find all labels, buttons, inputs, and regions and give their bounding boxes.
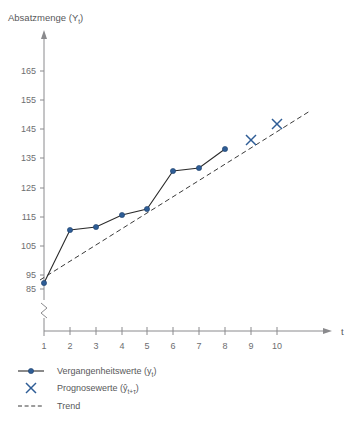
x-tick-label-5: 5	[144, 341, 149, 351]
data-point-t5	[144, 206, 149, 211]
x-tick-label-8: 8	[222, 341, 227, 351]
x-tick-label-3: 3	[93, 341, 98, 351]
y-axis-ticks	[40, 71, 44, 289]
chart-legend: Vergangenheitswerte (yt) Prognosewerte (…	[18, 366, 156, 411]
trend-line	[40, 111, 310, 280]
y-tick-label-115: 115	[22, 212, 36, 222]
legend-item-vergangenheitswerte: Vergangenheitswerte (yt)	[18, 366, 156, 378]
chart-svg: Absatzmenge (Yt) t 85 95 105 115 1	[0, 0, 361, 421]
x-tick-label-4: 4	[119, 341, 124, 351]
x-axis-label: t	[341, 326, 344, 337]
legend-item-prognosewerte: Prognosewerte (ŷt+τ)	[26, 383, 139, 395]
data-point-t3	[93, 224, 98, 229]
data-point-t6	[170, 168, 175, 173]
legend-label-trend: Trend	[57, 401, 80, 411]
legend-label-vergangenheitswerte: Vergangenheitswerte (yt)	[57, 366, 156, 378]
forecast-point-t9	[246, 135, 256, 145]
x-tick-label-1: 1	[41, 341, 46, 351]
x-tick-label-10: 10	[272, 341, 282, 351]
data-point-t2	[67, 227, 72, 232]
y-axis-title-close: )	[80, 12, 83, 23]
y-tick-label-165: 165	[21, 66, 36, 76]
y-axis-title: Absatzmenge (Yt)	[8, 12, 83, 25]
legend-label-prognosewerte: Prognosewerte (ŷt+τ)	[57, 383, 139, 395]
legend-item-trend: Trend	[18, 401, 80, 411]
y-axis-title-main: Absatzmenge (Y	[8, 12, 79, 23]
y-tick-label-95: 95	[26, 270, 36, 280]
x-axis-arrow	[323, 328, 332, 334]
data-point-t4	[119, 212, 124, 217]
data-point-t8	[222, 146, 227, 151]
x-axis-tick-labels: 1 2 3 4 5 6 7 8 9 10	[41, 341, 282, 351]
x-tick-label-6: 6	[170, 341, 175, 351]
chart-container: Absatzmenge (Yt) t 85 95 105 115 1	[0, 0, 361, 421]
y-tick-label-155: 155	[21, 95, 36, 105]
y-axis-tick-labels: 85 95 105 115 125 135 145 155 165	[21, 66, 36, 294]
x-tick-label-9: 9	[248, 341, 253, 351]
y-tick-label-145: 145	[21, 124, 36, 134]
forecast-point-t10	[272, 119, 282, 129]
y-axis-break-icon	[41, 303, 47, 318]
data-point-t7	[196, 165, 201, 170]
legend-swatch-x-icon	[26, 383, 36, 393]
x-tick-label-2: 2	[67, 341, 72, 351]
historical-markers	[41, 146, 227, 285]
data-point-t1	[41, 280, 46, 285]
y-axis-arrow	[41, 30, 47, 39]
x-tick-label-7: 7	[196, 341, 201, 351]
y-tick-label-85: 85	[26, 284, 36, 294]
y-tick-label-105: 105	[21, 241, 36, 251]
legend-swatch-dot-icon	[28, 368, 33, 373]
y-tick-label-135: 135	[21, 153, 36, 163]
y-tick-label-125: 125	[21, 183, 36, 193]
